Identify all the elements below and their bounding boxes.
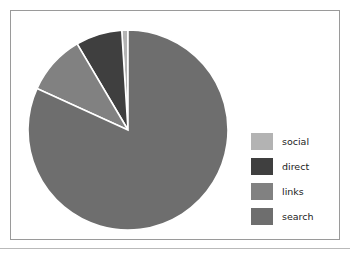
chart-frame: social direct links search [10,10,340,240]
pie-plot-area [28,30,228,230]
legend-swatch-links [251,183,273,200]
legend-label-search: search [282,212,314,222]
legend-label-direct: direct [282,162,309,172]
legend-item-search[interactable]: search [251,204,350,229]
legend-item-links[interactable]: links [251,179,350,204]
pie-chart-svg [28,30,228,230]
legend-label-social: social [282,137,309,147]
pie-chart-screenshot: social direct links search [0,0,350,255]
chart-legend: social direct links search [251,129,350,229]
legend-item-social[interactable]: social [251,129,350,154]
pie-slice-group [28,30,228,230]
legend-swatch-search [251,208,273,225]
legend-label-links: links [282,187,304,197]
legend-item-direct[interactable]: direct [251,154,350,179]
legend-swatch-social [251,133,273,150]
legend-swatch-direct [251,158,273,175]
bottom-separator-rule [0,248,350,249]
